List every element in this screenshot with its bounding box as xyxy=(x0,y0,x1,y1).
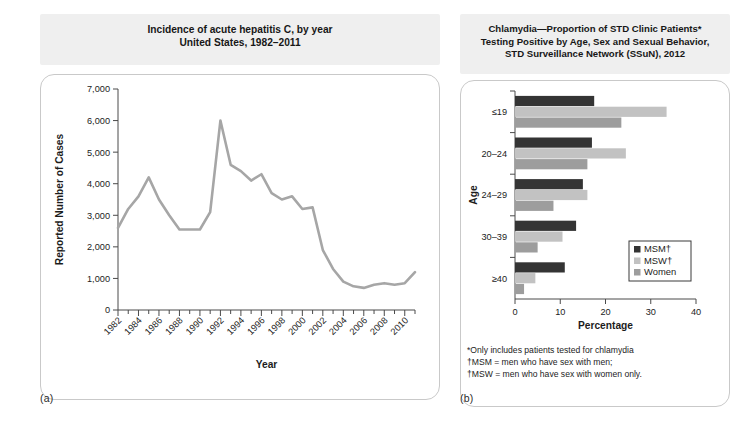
y-tick-label: 7,000 xyxy=(87,84,110,94)
x-tick-label: 1988 xyxy=(163,315,185,337)
bar xyxy=(515,96,594,106)
bar xyxy=(515,242,538,252)
bar xyxy=(515,232,563,242)
bar xyxy=(515,118,621,128)
bar xyxy=(515,148,626,158)
x-tick-label: 0 xyxy=(512,307,517,317)
panel-b-title: Chlamydia—Proportion of STD Clinic Patie… xyxy=(460,14,730,74)
x-tick-label: 1996 xyxy=(245,315,267,337)
y-tick-label: 3,000 xyxy=(87,211,110,221)
age-category-label: 20–24 xyxy=(481,149,507,159)
x-tick-label: 1992 xyxy=(204,315,226,337)
legend-swatch xyxy=(634,246,641,253)
bar xyxy=(515,179,583,189)
x-tick-label: 1986 xyxy=(143,315,165,337)
bar xyxy=(515,138,592,148)
x-tick-label: 30 xyxy=(646,307,656,317)
x-tick-label: 1994 xyxy=(225,315,247,337)
y-axis-title: Reported Number of Cases xyxy=(54,134,65,266)
footnote: †MSW = men who have sex with women only. xyxy=(467,369,642,379)
x-tick-label: 10 xyxy=(555,307,565,317)
footnote: *Only includes patients tested for chlam… xyxy=(467,345,634,355)
legend-swatch xyxy=(634,269,641,276)
x-axis-title: Percentage xyxy=(578,320,633,331)
x-tick-label: 20 xyxy=(600,307,610,317)
bar xyxy=(515,273,535,283)
age-category-label: ≤19 xyxy=(492,107,507,117)
legend-label: MSM† xyxy=(644,243,671,254)
bar xyxy=(515,190,587,200)
bar xyxy=(515,159,587,169)
age-category-label: 30–39 xyxy=(481,232,507,242)
x-tick-label: 1998 xyxy=(266,315,288,337)
panel-b-title-line-3: STD Surveillance Network (SSuN), 2012 xyxy=(466,48,724,61)
bar xyxy=(515,107,667,117)
panel-b-title-line-1: Chlamydia—Proportion of STD Clinic Patie… xyxy=(466,23,724,36)
legend-label: Women xyxy=(644,266,676,277)
bar xyxy=(515,201,553,211)
x-tick-label: 1990 xyxy=(184,315,206,337)
figure-panel-b: Chlamydia—Proportion of STD Clinic Patie… xyxy=(460,14,730,414)
legend: MSM†MSW†Women xyxy=(629,241,691,281)
panel-a-label: (a) xyxy=(40,392,53,404)
x-tick-label: 40 xyxy=(691,307,701,317)
legend-swatch xyxy=(634,258,641,265)
age-category-label: ≥40 xyxy=(492,274,507,284)
bar-chart-svg: ≤1920–2424–2930–39≥40010203040Percentage… xyxy=(461,81,729,406)
x-tick-label: 1982 xyxy=(102,315,124,337)
x-tick-label: 1984 xyxy=(122,315,144,337)
y-tick-label: 6,000 xyxy=(87,116,110,126)
x-tick-label: 2010 xyxy=(389,315,411,337)
bar xyxy=(515,221,576,231)
x-tick-label: 2000 xyxy=(286,315,308,337)
bar-chart-plot-area: ≤1920–2424–2930–39≥40010203040Percentage… xyxy=(460,80,730,407)
bar xyxy=(515,284,524,294)
hepatitis-c-incidence-line xyxy=(118,121,415,288)
y-tick-label: 1,000 xyxy=(87,274,110,284)
line-chart-svg: 01,0002,0003,0004,0005,0006,0007,0001982… xyxy=(41,75,439,399)
y-axis-title: Age xyxy=(468,185,479,205)
panel-a-title-line-1: Incidence of acute hepatitis C, by year xyxy=(46,23,434,36)
y-tick-label: 4,000 xyxy=(87,179,110,189)
panel-a-title: Incidence of acute hepatitis C, by year … xyxy=(40,14,440,65)
footnote: †MSM = men who have sex with men; xyxy=(467,357,612,367)
y-tick-label: 5,000 xyxy=(87,148,110,158)
bar xyxy=(515,262,565,272)
figure-panel-a: Incidence of acute hepatitis C, by year … xyxy=(40,14,440,414)
y-tick-label: 2,000 xyxy=(87,242,110,252)
panel-a-title-line-2: United States, 1982–2011 xyxy=(46,36,434,49)
panel-b-title-line-2: Testing Positive by Age, Sex and Sexual … xyxy=(466,36,724,49)
line-chart-plot-area: 01,0002,0003,0004,0005,0006,0007,0001982… xyxy=(40,74,440,400)
x-tick-label: 2002 xyxy=(307,315,329,337)
panel-b-label: (b) xyxy=(460,392,473,404)
age-category-label: 24–29 xyxy=(481,190,507,200)
legend-label: MSW† xyxy=(644,255,672,266)
y-tick-label: 0 xyxy=(105,305,110,315)
x-axis-title: Year xyxy=(256,359,278,370)
x-tick-label: 2004 xyxy=(327,315,349,337)
x-tick-label: 2006 xyxy=(348,315,370,337)
x-tick-label: 2008 xyxy=(368,315,390,337)
